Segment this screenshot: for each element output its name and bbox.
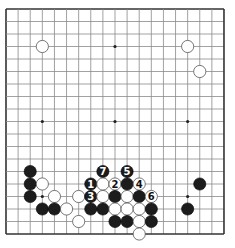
stone-icon — [145, 203, 157, 215]
white-stone — [48, 190, 60, 202]
stone-icon — [109, 203, 121, 215]
stone-icon — [73, 190, 85, 202]
black-stone — [121, 178, 133, 190]
star-point-icon — [186, 195, 189, 198]
black-stone: 3 — [85, 190, 97, 202]
stone-icon — [133, 215, 145, 227]
stone-icon — [109, 215, 121, 227]
star-point-icon — [113, 120, 116, 123]
stone-icon — [133, 203, 145, 215]
stone-icon — [182, 40, 194, 52]
stone-icon — [109, 190, 121, 202]
stone-icon — [97, 190, 109, 202]
black-stone — [109, 190, 121, 202]
stone-icon — [194, 65, 206, 77]
white-stone — [109, 203, 121, 215]
move-number-label: 4 — [136, 179, 143, 190]
stone-icon — [85, 203, 97, 215]
white-stone — [36, 40, 48, 52]
stone-icon — [121, 203, 133, 215]
white-stone — [36, 178, 48, 190]
stone-icon — [36, 40, 48, 52]
stone-icon — [121, 178, 133, 190]
white-stone — [97, 190, 109, 202]
black-stone — [24, 178, 36, 190]
stone-icon — [133, 190, 145, 202]
white-stone: 4 — [133, 178, 145, 190]
stone-icon — [24, 190, 36, 202]
white-stone — [133, 215, 145, 227]
white-stone — [60, 203, 72, 215]
stone-icon — [36, 203, 48, 215]
white-stone: 2 — [109, 178, 121, 190]
stone-icon — [24, 165, 36, 177]
black-stone — [85, 203, 97, 215]
black-stone — [24, 165, 36, 177]
black-stone — [109, 215, 121, 227]
black-stone — [182, 203, 194, 215]
move-number-label: 7 — [99, 166, 106, 177]
star-point-icon — [113, 45, 116, 48]
black-stone — [36, 203, 48, 215]
white-stone — [194, 65, 206, 77]
black-stone — [145, 203, 157, 215]
black-stone: 5 — [121, 165, 133, 177]
stone-icon — [121, 215, 133, 227]
move-number-label: 1 — [87, 179, 94, 190]
black-stone — [48, 203, 60, 215]
white-stone — [133, 203, 145, 215]
black-stone — [121, 215, 133, 227]
white-stone — [121, 203, 133, 215]
stone-icon — [60, 203, 72, 215]
stone-icon — [97, 178, 109, 190]
black-stone — [133, 190, 145, 202]
black-stone — [194, 178, 206, 190]
white-stone — [73, 215, 85, 227]
stone-icon — [194, 178, 206, 190]
stone-icon — [97, 203, 109, 215]
stone-icon — [24, 178, 36, 190]
move-number-label: 5 — [124, 166, 131, 177]
white-stone — [73, 190, 85, 202]
white-stone — [97, 178, 109, 190]
star-point-icon — [41, 120, 44, 123]
move-number-label: 6 — [148, 191, 155, 202]
move-number-label: 2 — [112, 179, 119, 190]
white-stone — [182, 40, 194, 52]
stone-icon — [121, 190, 133, 202]
move-number-label: 3 — [87, 191, 94, 202]
black-stone — [145, 215, 157, 227]
stone-icon — [133, 228, 145, 240]
white-stone — [133, 228, 145, 240]
star-point-icon — [41, 195, 44, 198]
white-stone: 6 — [145, 190, 157, 202]
black-stone: 7 — [97, 165, 109, 177]
white-stone — [121, 190, 133, 202]
stone-icon — [48, 190, 60, 202]
stone-icon — [182, 203, 194, 215]
black-stone — [97, 203, 109, 215]
black-stone: 1 — [85, 178, 97, 190]
stone-icon — [48, 203, 60, 215]
stone-icon — [36, 178, 48, 190]
star-point-icon — [186, 120, 189, 123]
go-board[interactable]: 7512436 — [0, 0, 235, 248]
black-stone — [24, 190, 36, 202]
stone-icon — [73, 215, 85, 227]
stone-icon — [145, 215, 157, 227]
